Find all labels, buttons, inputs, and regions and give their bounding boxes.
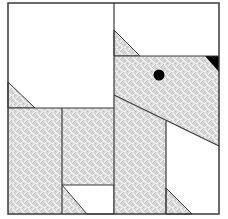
eye-dot	[154, 70, 165, 81]
quilt-block-diagram	[0, 0, 228, 219]
